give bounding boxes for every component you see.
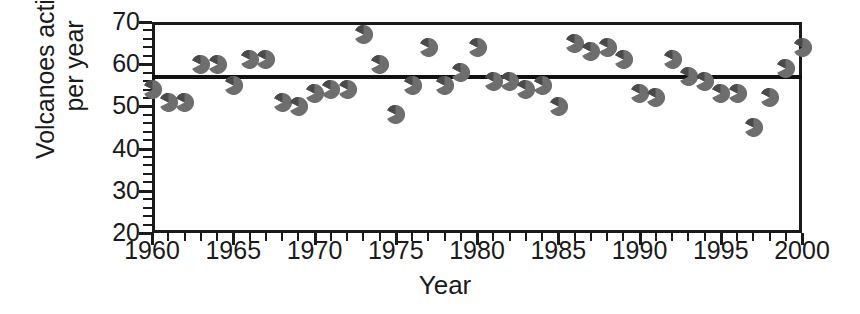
data-point <box>451 63 470 82</box>
y-axis-tick-labels: 706050403020 <box>94 0 140 314</box>
y-tick-24 <box>143 215 152 217</box>
y-tick-30 <box>139 190 152 193</box>
y-tick-38 <box>143 156 152 158</box>
x-tick-1979 <box>460 233 462 241</box>
y-tick-60 <box>139 63 152 66</box>
x-tick-1999 <box>785 233 787 241</box>
data-point <box>776 59 795 78</box>
data-point <box>760 88 779 107</box>
x-tick-1986 <box>574 233 576 241</box>
x-tick-1967 <box>265 233 267 241</box>
x-tick-1985 <box>557 233 560 245</box>
y-tick-66 <box>143 38 152 40</box>
x-tick-1978 <box>444 233 446 241</box>
x-tick-1968 <box>281 233 283 241</box>
x-tick-1989 <box>622 233 624 241</box>
x-tick-1974 <box>379 233 381 241</box>
x-tick-1980 <box>476 233 479 245</box>
x-tick-2000 <box>801 233 804 245</box>
axis-frame-top <box>152 22 802 25</box>
data-point <box>386 105 405 124</box>
x-axis-title: Year <box>0 270 860 301</box>
y-tick-label-30: 30 <box>94 178 140 203</box>
y-tick-40 <box>139 148 152 151</box>
x-tick-1998 <box>769 233 771 241</box>
x-tick-1972 <box>346 233 348 241</box>
y-tick-50 <box>139 105 152 108</box>
data-point <box>549 97 568 116</box>
x-tick-1964 <box>216 233 218 241</box>
x-tick-1982 <box>509 233 511 241</box>
x-tick-1991 <box>655 233 657 241</box>
x-tick-1963 <box>200 233 202 241</box>
y-tick-58 <box>143 72 152 74</box>
x-tick-1993 <box>687 233 689 241</box>
x-tick-1969 <box>297 233 299 241</box>
y-tick-42 <box>143 139 152 141</box>
data-point <box>614 50 633 69</box>
y-tick-label-40: 40 <box>94 136 140 161</box>
data-point <box>403 76 422 95</box>
y-tick-28 <box>143 198 152 200</box>
x-tick-1987 <box>590 233 592 241</box>
data-point <box>646 88 665 107</box>
x-tick-1997 <box>752 233 754 241</box>
x-tick-1962 <box>184 233 186 241</box>
chart-figure: Volcanoes active per year 706050403020 1… <box>0 0 860 314</box>
x-tick-1973 <box>362 233 364 241</box>
y-tick-36 <box>143 164 152 166</box>
x-tick-1970 <box>314 233 317 245</box>
x-tick-1971 <box>330 233 332 241</box>
x-tick-1996 <box>736 233 738 241</box>
axis-frame-left <box>152 22 155 233</box>
data-point <box>419 38 438 57</box>
data-point <box>468 38 487 57</box>
x-tick-1994 <box>704 233 706 241</box>
x-tick-1995 <box>720 233 723 245</box>
x-tick-1992 <box>671 233 673 241</box>
y-tick-34 <box>143 173 152 175</box>
x-tick-1975 <box>395 233 398 245</box>
x-tick-1960 <box>151 233 154 245</box>
data-point <box>354 25 373 44</box>
data-point <box>728 84 747 103</box>
x-tick-1981 <box>492 233 494 241</box>
y-axis-title-line-2: per year <box>60 0 89 159</box>
y-tick-22 <box>143 224 152 226</box>
y-tick-44 <box>143 131 152 133</box>
data-point <box>338 80 357 99</box>
x-tick-1988 <box>606 233 608 241</box>
data-point <box>533 76 552 95</box>
y-tick-46 <box>143 122 152 124</box>
y-tick-32 <box>143 181 152 183</box>
x-tick-1965 <box>232 233 235 245</box>
data-point <box>175 93 194 112</box>
x-tick-1984 <box>541 233 543 241</box>
x-tick-1977 <box>427 233 429 241</box>
x-tick-1990 <box>639 233 642 245</box>
data-point <box>744 118 763 137</box>
x-tick-1983 <box>525 233 527 241</box>
y-tick-48 <box>143 114 152 116</box>
x-tick-1976 <box>411 233 413 241</box>
x-tick-1966 <box>249 233 251 241</box>
plot-area <box>152 22 802 233</box>
y-tick-64 <box>143 46 152 48</box>
y-tick-label-60: 60 <box>94 51 140 76</box>
y-axis-title-line-1: Volcanoes active <box>31 0 60 159</box>
data-point <box>256 50 275 69</box>
y-tick-26 <box>143 207 152 209</box>
y-tick-68 <box>143 29 152 31</box>
x-axis-title-text: Year <box>419 270 472 300</box>
data-point <box>208 55 227 74</box>
x-tick-1961 <box>167 233 169 241</box>
y-tick-label-50: 50 <box>94 93 140 118</box>
data-point <box>793 38 812 57</box>
data-point <box>370 55 389 74</box>
y-tick-62 <box>143 55 152 57</box>
y-tick-70 <box>139 21 152 24</box>
y-tick-label-70: 70 <box>94 9 140 34</box>
data-point <box>224 76 243 95</box>
